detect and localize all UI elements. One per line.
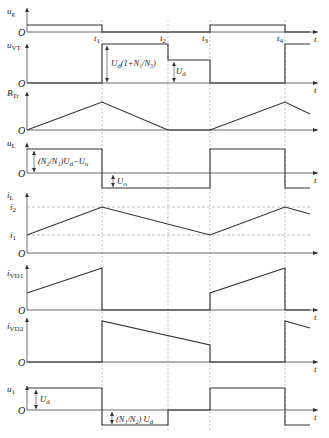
uL-annotation-arrow-up-icon [32,151,36,155]
uL-annotation-1: Uo [117,176,127,188]
uVT-t-label: t [314,85,317,95]
iVD1-label: iVD1 [7,268,24,280]
iVD2-waveform [27,321,310,362]
uVT-annotation-arrow-up-icon [105,46,109,50]
iVD1-y-arrow-icon [25,265,29,269]
ug-origin-label: O [18,27,25,38]
iL-waveform [27,207,310,235]
uVT-waveform [27,44,310,83]
waveform-canvas: ugOtuVTOtUd(1+N₁/N₃)UdBTrOuLOt(N₂/N₁)Ud−… [0,0,329,438]
iVD1-t-label: t [314,312,317,322]
ug-t-label: t [314,34,317,44]
u1-annotation-arrow-up-icon [110,412,114,416]
iL-label: iL [7,190,14,202]
BTr-x-arrow-icon [313,128,318,132]
uL-t-label: t [314,175,317,185]
BTr-origin-label: O [18,125,25,136]
u1-annotation-1: (N₁/N₂) Ud [116,414,154,426]
uL-annotation-0: (N₂/N₁)Ud−Uo [38,156,89,168]
iVD2-origin-label: O [18,357,25,368]
iL-origin-label: O [18,248,25,259]
u1-label: u1 [7,384,16,396]
ug-waveform [27,25,310,32]
time-label-t3: t3 [202,33,209,45]
uVT-annotation-1: Ud [176,66,186,78]
iVD1-waveform [27,268,310,310]
uL-annotation-arrow-down-icon [111,183,115,187]
uL-label: uL [7,138,16,150]
uL-y-arrow-icon [25,143,29,147]
iL-level-label-1: i1 [10,230,17,242]
BTr-y-arrow-icon [25,92,29,96]
u1-annotation-arrow-up-icon [34,390,38,394]
time-label-t1: t1 [94,33,101,45]
iL-level-label-2: i2 [10,202,17,214]
waveform-diagram: ugOtuVTOtUd(1+N₁/N₃)UdBTrOuLOt(N₂/N₁)Ud−… [0,0,329,438]
iVD2-y-arrow-icon [25,318,29,322]
iVD2-t-label: t [314,364,317,374]
uL-waveform [27,149,310,188]
uVT-label: uVT [7,40,22,52]
uVT-annotation-0: Ud(1+N₁/N₃) [111,58,156,70]
uL-annotation-arrow-up-icon [111,175,115,179]
uL-annotation-arrow-down-icon [32,168,36,172]
time-label-t4: t4 [277,33,284,45]
u1-t-label: t [314,412,317,422]
ug-label: ug [7,6,16,18]
u1-annotation-arrow-down-icon [110,420,114,424]
u1-waveform [27,388,310,425]
uVT-annotation-arrow-down-icon [172,78,176,82]
iVD1-origin-label: O [18,305,25,316]
u1-origin-label: O [18,405,25,416]
ug-y-arrow-icon [25,8,29,12]
uVT-annotation-arrow-down-icon [105,78,109,82]
uVT-origin-label: O [18,78,25,89]
iL-x-arrow-icon [313,251,318,255]
iVD2-label: iVD2 [7,321,24,333]
iL-y-arrow-icon [25,193,29,197]
uL-origin-label: O [18,168,25,179]
BTr-waveform [27,102,310,130]
time-label-t2: t2 [160,33,167,45]
uVT-y-arrow-icon [25,44,29,48]
u1-annotation-arrow-down-icon [34,405,38,409]
BTr-label: BTr [7,88,20,100]
u1-annotation-0: Ud [40,394,50,406]
